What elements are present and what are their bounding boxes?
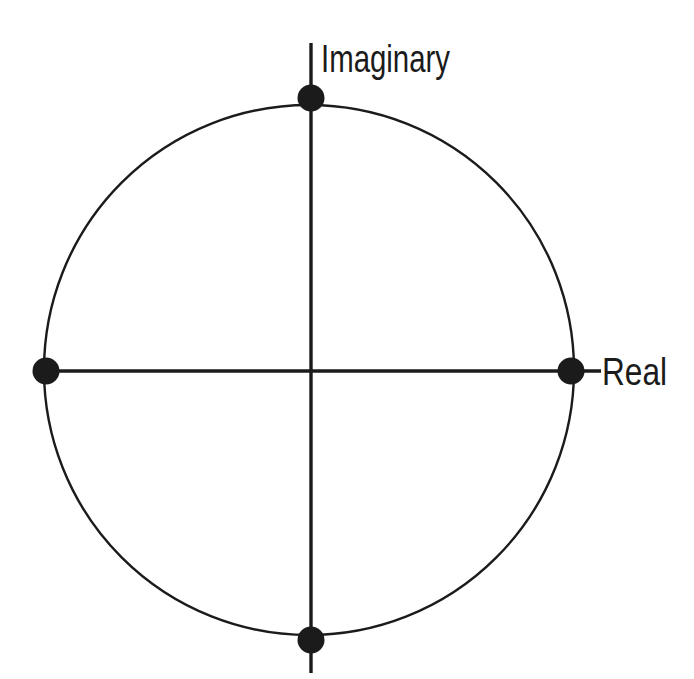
figure-root: Imaginary Real bbox=[0, 0, 694, 679]
real-axis-label: Real bbox=[602, 351, 667, 393]
root-marker-minus-i bbox=[298, 627, 325, 654]
imaginary-axis-label: Imaginary bbox=[321, 38, 450, 80]
root-marker-minus-one bbox=[33, 358, 60, 385]
complex-plane-diagram: Imaginary Real bbox=[0, 0, 694, 679]
root-marker-one bbox=[558, 358, 585, 385]
root-marker-i bbox=[298, 85, 325, 112]
